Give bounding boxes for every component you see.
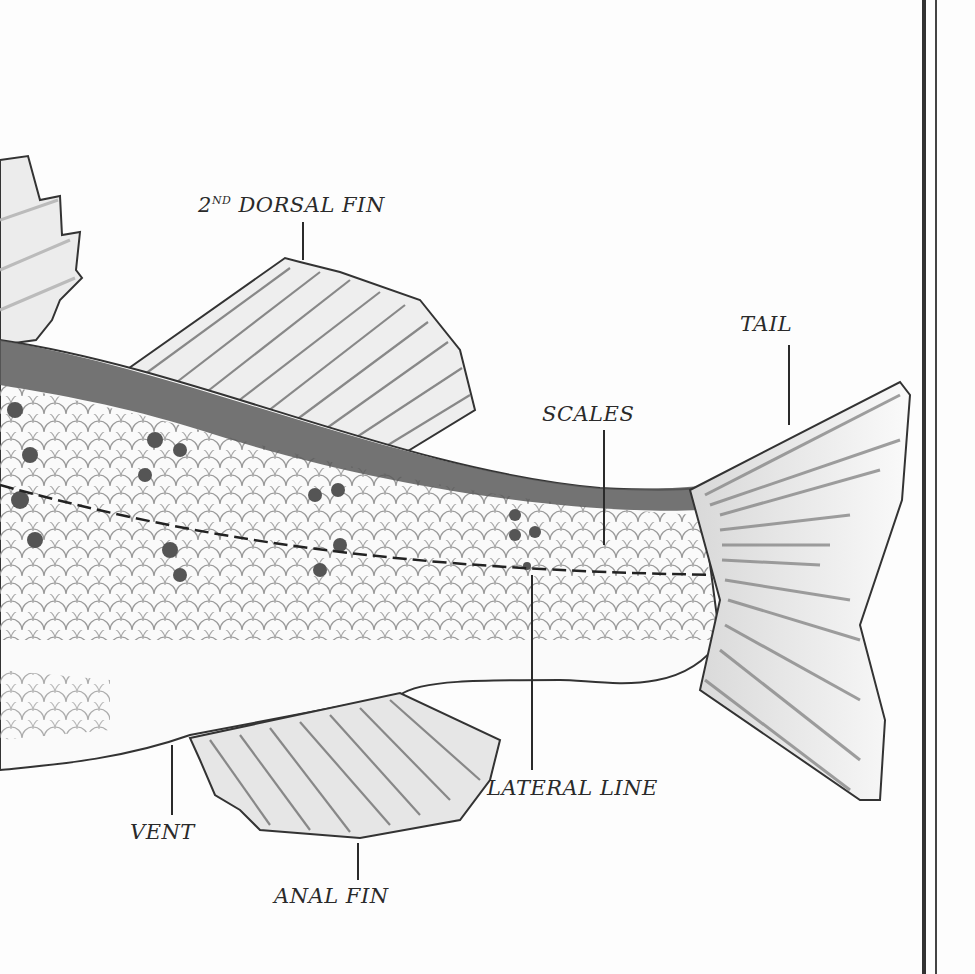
label-scales: SCALES [542,402,634,426]
label-anal-fin: ANAL FIN [274,884,389,908]
label-second-dorsal-fin: 2ND DORSAL FIN [198,193,385,217]
label-tail: TAIL [740,312,792,336]
label-vent: VENT [130,820,195,844]
page-border [924,0,936,974]
first-dorsal-fin [0,156,82,345]
label-lateral-line: LATERAL LINE [487,776,658,800]
fish-diagram: 2ND DORSAL FIN TAIL SCALES LATERAL LINE … [0,0,975,974]
tail-fin [690,382,910,800]
